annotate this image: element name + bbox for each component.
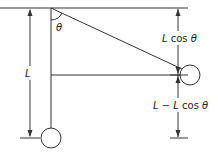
arrow-up-icon	[28, 9, 33, 16]
theta-label: θ	[56, 22, 62, 33]
arrow-down-icon	[28, 130, 33, 137]
vertical-component-label: L cos θ	[162, 33, 197, 44]
rise-height-label: L − L cos θ	[153, 100, 208, 111]
arrow-down-icon	[176, 130, 181, 137]
bob-rest	[41, 128, 61, 148]
length-label: L	[25, 68, 31, 79]
theta-arc	[51, 13, 62, 20]
pendulum-diagram: θ L L cos θ L − L cos θ	[0, 0, 218, 152]
arrow-up-icon	[176, 9, 181, 16]
